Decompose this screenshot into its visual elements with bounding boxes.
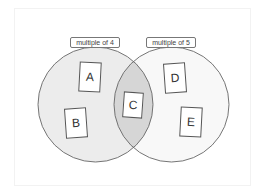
card-a[interactable]: A xyxy=(78,61,102,92)
set-label-multiple-of-4: multiple of 4 xyxy=(70,37,120,48)
card-e[interactable]: E xyxy=(179,106,203,137)
card-c[interactable]: C xyxy=(122,91,144,118)
set-label-multiple-of-5: multiple of 5 xyxy=(146,37,196,48)
card-b[interactable]: B xyxy=(64,107,88,138)
card-d[interactable]: D xyxy=(163,62,187,93)
